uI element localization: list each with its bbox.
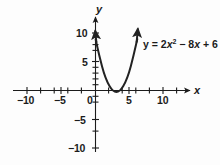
graph-figure: −10 −5 0 5 10 10 5 −5 −10 x y y = 2x2 − … bbox=[0, 0, 220, 165]
coordinate-plane-svg bbox=[0, 0, 220, 165]
parabola-curve bbox=[95, 29, 138, 93]
x-axis bbox=[13, 87, 190, 94]
